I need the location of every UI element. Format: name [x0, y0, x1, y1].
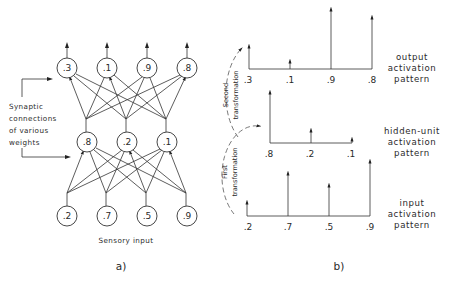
tick-label: .5: [325, 222, 334, 232]
panel-a-caption: a): [116, 260, 127, 272]
pattern-label: pattern: [394, 74, 430, 84]
output-unit-value: .8: [183, 63, 192, 73]
first-transformation-label: First: [221, 165, 229, 179]
second-transformation-label: Second: [222, 83, 230, 107]
pattern-label: input: [399, 198, 424, 208]
input-layer: .2 .7 .5 .9: [57, 206, 197, 226]
hidden-unit-value: .1: [163, 137, 172, 147]
input-activation-chart: .2 .7 .5 .9 input activation pattern: [244, 161, 437, 232]
tick-label: .8: [368, 75, 377, 85]
hidden-activation-chart: .8 .2 .1 hidden-unit activation pattern: [265, 92, 440, 159]
figure: .3 .1 .9 .8 .8 .2: [0, 0, 449, 286]
first-transformation-label: transformation: [231, 148, 239, 197]
output-unit: .3: [57, 58, 77, 78]
tick-label: .7: [284, 222, 293, 232]
activation-patterns: Second transformation First transformati…: [221, 9, 440, 272]
synaptic-label-line: of various: [9, 126, 49, 135]
pattern-label: hidden-unit: [384, 126, 440, 136]
pointer-arrow-icon: [22, 79, 50, 97]
input-unit: .2: [57, 206, 77, 226]
pattern-label: output: [396, 52, 428, 62]
tick-label: .9: [327, 75, 336, 85]
tick-label: .3: [244, 75, 253, 85]
tick-label: .9: [366, 222, 375, 232]
panel-b-caption: b): [334, 260, 345, 272]
input-unit: .5: [137, 206, 157, 226]
tick-label: .2: [306, 149, 315, 159]
hidden-unit-value: .8: [83, 137, 92, 147]
hidden-unit: .1: [157, 132, 177, 152]
input-unit: .7: [97, 206, 117, 226]
input-unit-value: .7: [103, 211, 112, 221]
hidden-to-output-connections: [70, 74, 185, 132]
tick-label: .1: [347, 149, 356, 159]
output-unit-value: .1: [103, 63, 112, 73]
pointer-arrow-icon: [22, 148, 68, 157]
output-unit-value: .3: [63, 63, 72, 73]
pattern-label: pattern: [394, 148, 430, 158]
synaptic-label-line: Synaptic: [9, 102, 43, 111]
pattern-label: pattern: [394, 220, 430, 230]
synaptic-callout: Synaptic connections of various weights: [9, 79, 68, 157]
hidden-unit-value: .2: [123, 137, 132, 147]
network-diagram: .3 .1 .9 .8 .8 .2: [9, 45, 197, 272]
output-unit: .8: [177, 58, 197, 78]
hidden-unit: .8: [77, 132, 97, 152]
pattern-label: activation: [388, 63, 437, 73]
tick-label: .8: [265, 149, 274, 159]
synaptic-label-line: connections: [9, 114, 57, 123]
pattern-label: activation: [388, 137, 437, 147]
input-to-hidden-connections: [67, 148, 186, 206]
first-transformation: First transformation: [221, 126, 259, 214]
output-unit: .1: [97, 58, 117, 78]
synaptic-label-line: weights: [9, 138, 40, 147]
second-transformation: Second transformation: [222, 49, 241, 137]
sensory-input-label: Sensory input: [99, 236, 154, 245]
pattern-label: activation: [388, 209, 437, 219]
hidden-unit: .2: [117, 132, 137, 152]
second-transformation-label: transformation: [232, 71, 240, 120]
input-unit-value: .5: [143, 211, 152, 221]
tick-label: .1: [286, 75, 295, 85]
tick-label: .2: [244, 222, 253, 232]
output-activation-chart: .3 .1 .9 .8 output activation pattern: [244, 9, 437, 85]
output-unit: .9: [137, 58, 157, 78]
output-arrows: [67, 45, 187, 58]
input-unit: .9: [177, 206, 197, 226]
output-unit-value: .9: [143, 63, 152, 73]
input-unit-value: .9: [183, 211, 192, 221]
input-unit-value: .2: [63, 211, 72, 221]
hidden-layer: .8 .2 .1: [77, 132, 177, 152]
